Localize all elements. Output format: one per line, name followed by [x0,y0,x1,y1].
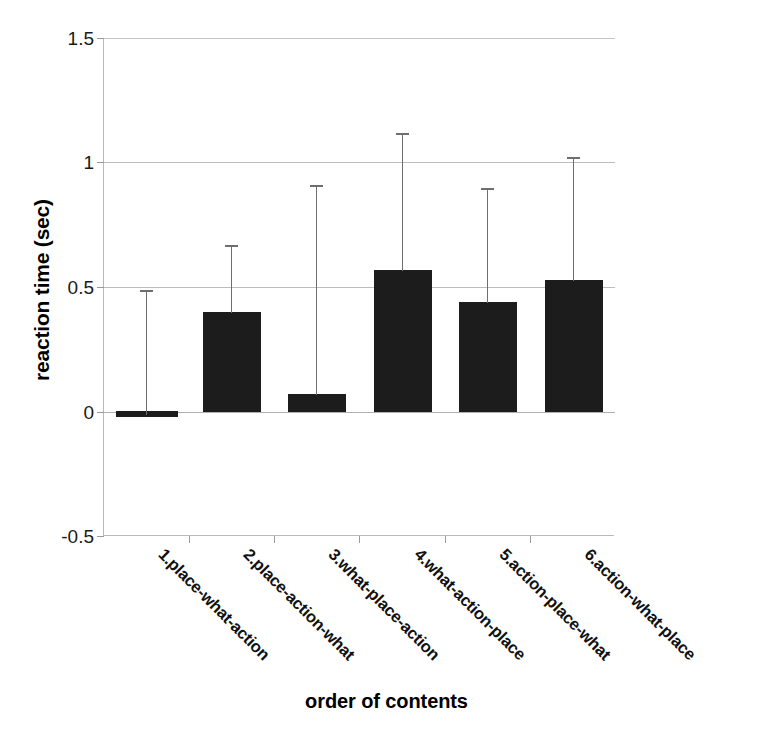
y-tick-label-0.5: 0.5 [34,278,94,297]
y-axis-tick-labels: 1.5 1 0.5 0 -0.5 [32,0,94,743]
bar-4 [374,270,432,412]
gridline-0 [104,412,615,413]
error-bar-cap-4 [396,133,409,135]
bar-1 [116,411,178,417]
y-tick-label-0: 0 [34,403,94,422]
y-tickmark-0 [97,412,104,413]
x-tickmark-2 [274,536,275,543]
y-tick-label--0.5: -0.5 [34,527,94,546]
x-tickmark-3 [359,536,360,543]
y-tickmark--0.5 [97,536,104,537]
plot-area [103,38,614,536]
error-bar-cap-2 [225,245,238,247]
bar-3 [288,394,346,412]
bar-6 [545,280,603,412]
x-tickmark-1 [189,536,190,543]
y-tickmark-1.5 [97,38,104,39]
y-tickmark-0.5 [97,287,104,288]
bar-2 [203,312,261,412]
gridline-1 [104,162,615,163]
gridline-0.5 [104,287,615,288]
error-bar-line-6 [573,157,574,281]
y-tickmark-1 [97,162,104,163]
error-bar-line-4 [402,133,403,271]
error-bar-line-1 [146,290,147,415]
gridline-1.5 [104,38,615,39]
bar-chart-figure: reaction time (sec) 1.5 1 0.5 0 -0.5 [0,0,773,743]
error-bar-cap-5 [481,188,494,190]
error-bar-line-2 [231,245,232,313]
error-bar-cap-1 [140,290,153,292]
error-bar-line-3 [316,185,317,395]
x-tickmark-5 [530,536,531,543]
bar-5 [459,302,517,412]
x-tickmark-4 [445,536,446,543]
error-bar-cap-6 [567,157,580,159]
error-bar-cap-3 [310,185,323,187]
y-tick-label-1: 1 [34,153,94,172]
y-tick-label-1.5: 1.5 [34,29,94,48]
x-axis-title: order of contents [0,690,773,713]
error-bar-line-5 [487,188,488,303]
